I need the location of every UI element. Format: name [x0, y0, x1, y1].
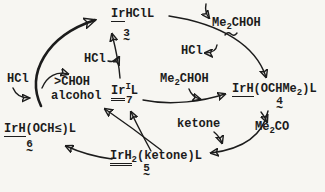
hcl-left-label: HCl [7, 73, 29, 86]
reaction-scheme: IrHClL 3~ IrIL 7 IrH(OCHMe2)L 4~ IrH2(ke… [0, 0, 325, 192]
arrow-hcl-left-in [13, 88, 29, 98]
formula-part: Me [212, 16, 226, 30]
compound-6-rest: (OCH≤)L [26, 122, 76, 136]
arrow-isopropanol-center-in [189, 89, 200, 99]
compound-7-formula: IrIL [111, 81, 138, 98]
compound-5-formula: IrH2(ketone)L [110, 150, 202, 167]
arrow-isopropanol-top-in [206, 4, 209, 18]
tilde-mark: ~ [276, 106, 283, 113]
compound-5-number: 5~ [143, 164, 150, 180]
isopropanol-top-label: Me2CHOH [212, 17, 261, 34]
acetone-label: Me2CO [255, 121, 289, 138]
arrow-5-to-7 [131, 112, 151, 151]
arrow-hcl-right-out [205, 45, 217, 53]
compound-3-rest: HClL [125, 7, 154, 21]
compound-number-digit: 7 [126, 96, 133, 105]
hcl-center-label: HCl [84, 53, 106, 66]
formula-part: CHOH [180, 72, 209, 86]
compound-5-metal: IrH [110, 149, 132, 166]
compound-4-formula: IrH(OCHMe2)L [232, 83, 317, 100]
formula-part: Me [160, 72, 174, 86]
isopropanol-center-label: Me2CHOH [160, 73, 209, 90]
compound-3-number: 3~ [123, 29, 130, 45]
compound-3-formula: IrHClL [111, 8, 154, 21]
tilde-mark: ~ [26, 149, 33, 156]
hcl-right-label: HCl [181, 45, 203, 58]
compound-6-number: 6~ [26, 140, 33, 156]
compound-7-metal: Ir [111, 84, 125, 101]
sec-alcohol-label: >CHOH [54, 76, 90, 89]
compound-7-number: 7 [126, 96, 133, 105]
formula-part: Me [255, 120, 269, 134]
compound-4-part1: (OCHMe [254, 82, 297, 96]
compound-6-metal: IrH [4, 122, 26, 137]
formula-part: CO [275, 120, 289, 134]
compound-6-formula: IrH(OCH≤)L [4, 123, 76, 136]
compound-4-number: 4~ [276, 97, 283, 113]
formula-part: CHOH [232, 16, 261, 30]
compound-3-metal: Ir [111, 7, 125, 22]
ketone-word-label: ketone [177, 118, 220, 131]
alcohol-word-label: alcohol [51, 90, 101, 103]
arrow-7-to-4 [143, 94, 225, 103]
arrow-5-to-6 [66, 146, 112, 159]
arrow-ketone-in [214, 132, 222, 143]
compound-5-rest: (ketone)L [137, 149, 202, 163]
tilde-mark: ~ [143, 173, 150, 180]
compound-4-part2: )L [302, 82, 316, 96]
compound-4-metal: IrH [232, 82, 254, 97]
tilde-mark: ~ [123, 38, 130, 45]
arrow-7-to-3 [112, 34, 120, 78]
